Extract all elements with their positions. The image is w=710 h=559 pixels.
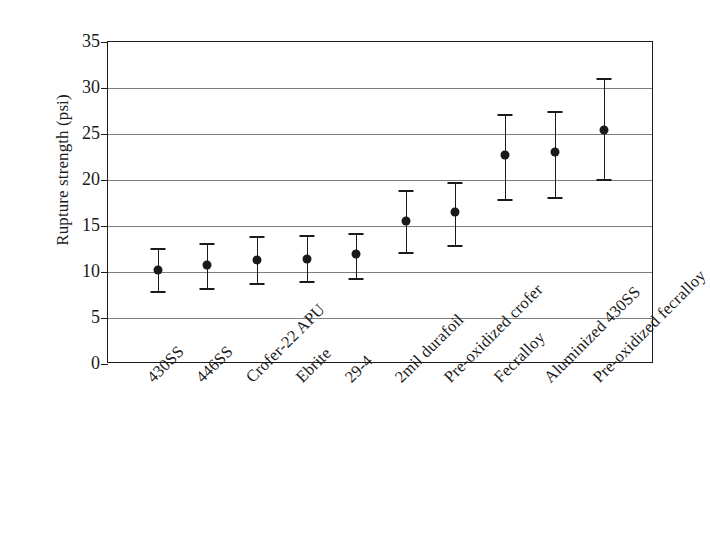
gridline <box>108 318 652 319</box>
y-tick-label: 30 <box>66 77 100 98</box>
gridline <box>108 226 652 227</box>
gridline <box>108 88 652 89</box>
gridline <box>108 134 652 135</box>
data-point-marker <box>153 266 162 275</box>
error-bar-cap-lower <box>597 179 612 181</box>
y-tick-mark <box>101 134 108 135</box>
data-point-marker <box>550 148 559 157</box>
error-bar-cap-upper <box>498 114 513 116</box>
error-bar-cap-upper <box>448 182 463 184</box>
y-tick-label: 15 <box>66 215 100 236</box>
y-tick-label: 0 <box>66 353 100 374</box>
error-bar-cap-lower <box>398 252 413 254</box>
y-tick-mark <box>101 180 108 181</box>
gridline <box>108 272 652 273</box>
error-bar-cap-lower <box>498 199 513 201</box>
error-bar-cap-lower <box>200 288 215 290</box>
y-tick-mark <box>101 42 108 43</box>
data-point-marker <box>600 126 609 135</box>
data-point-marker <box>252 256 261 265</box>
y-tick-mark <box>101 364 108 365</box>
y-tick-label: 20 <box>66 169 100 190</box>
error-bar-cap-upper <box>597 78 612 80</box>
error-bar-cap-lower <box>547 197 562 199</box>
error-bar-cap-upper <box>150 248 165 250</box>
error-bar-cap-upper <box>547 111 562 113</box>
error-bar-cap-lower <box>249 283 264 285</box>
error-bar-cap-upper <box>349 233 364 235</box>
data-point-marker <box>302 255 311 264</box>
y-tick-label: 5 <box>66 307 100 328</box>
y-axis-tick-labels: 05101520253035 <box>62 0 100 559</box>
y-tick-label: 35 <box>66 31 100 52</box>
y-tick-mark <box>101 88 108 89</box>
error-bar-cap-upper <box>398 190 413 192</box>
data-point-marker <box>352 249 361 258</box>
data-point-marker <box>401 217 410 226</box>
error-bar-cap-lower <box>150 291 165 293</box>
error-bar-cap-lower <box>299 281 314 283</box>
error-bar-cap-upper <box>299 235 314 237</box>
error-bar-cap-lower <box>448 245 463 247</box>
error-bar-cap-upper <box>249 236 264 238</box>
gridline <box>108 180 652 181</box>
y-tick-mark <box>101 226 108 227</box>
plot-area <box>107 41 653 363</box>
error-bar-cap-upper <box>200 243 215 245</box>
data-point-marker <box>451 208 460 217</box>
y-tick-label: 10 <box>66 261 100 282</box>
y-tick-label: 25 <box>66 123 100 144</box>
data-point-marker <box>203 260 212 269</box>
y-tick-mark <box>101 272 108 273</box>
data-point-marker <box>501 151 510 160</box>
error-bar-cap-lower <box>349 278 364 280</box>
y-tick-mark <box>101 318 108 319</box>
